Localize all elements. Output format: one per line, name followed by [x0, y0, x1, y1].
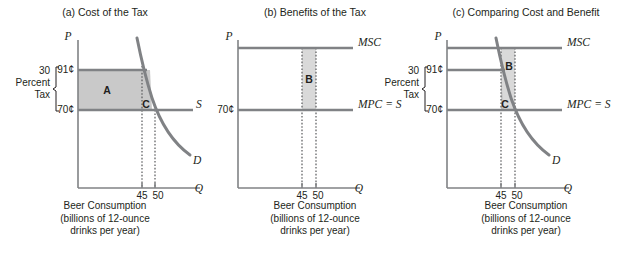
caption-line-1: Beer Consumption: [421, 200, 631, 213]
caption-line-1: Beer Consumption: [0, 200, 210, 213]
supply-curve-label: S: [196, 98, 202, 110]
region-label-c: C: [142, 98, 150, 110]
x-axis-label: Q: [355, 182, 364, 194]
price-label-91: 91¢: [57, 64, 74, 75]
caption-line-3: drinks per year): [210, 225, 420, 238]
tax-label-line1: 30: [408, 65, 420, 76]
y-axis-label: P: [224, 30, 232, 42]
price-label-70: 70¢: [426, 104, 443, 115]
region-label-a: A: [103, 84, 111, 96]
economics-figure: (a) Cost of the Tax P: [0, 0, 631, 253]
region-label-b: B: [505, 60, 513, 72]
tax-label-line3: Tax: [34, 89, 50, 100]
price-label-91: 91¢: [426, 64, 443, 75]
caption-line-2: (billions of 12-ounce: [421, 213, 631, 226]
panel-b-caption: Beer Consumption (billions of 12-ounce d…: [210, 200, 420, 238]
msc-curve-label: MSC: [357, 36, 381, 48]
region-label-c: C: [501, 98, 509, 110]
x-axis-label: Q: [564, 182, 573, 194]
caption-line-3: drinks per year): [421, 225, 631, 238]
price-label-70: 70¢: [57, 104, 74, 115]
y-axis-label: P: [63, 30, 71, 42]
panel-comparing-cost-and-benefit: (c) Comparing Cost and Benefit: [421, 0, 631, 253]
panel-c-caption: Beer Consumption (billions of 12-ounce d…: [421, 200, 631, 238]
tax-label-line2: Percent: [16, 77, 51, 88]
msc-curve-label: MSC: [566, 36, 590, 48]
panel-cost-of-the-tax: (a) Cost of the Tax P: [0, 0, 210, 253]
x-axis-label: Q: [195, 182, 204, 194]
mpc-curve-label: MPC = S: [357, 98, 402, 110]
caption-line-2: (billions of 12-ounce: [210, 213, 420, 226]
caption-line-3: drinks per year): [0, 225, 210, 238]
caption-line-2: (billions of 12-ounce: [0, 213, 210, 226]
demand-curve-label: D: [551, 154, 561, 166]
panel-benefits-of-the-tax: (b) Benefits of the Tax P Q 70¢ B MSC: [210, 0, 420, 253]
demand-curve-label: D: [192, 154, 202, 166]
tax-label-line2: Percent: [385, 77, 420, 88]
price-label-70: 70¢: [217, 104, 234, 115]
panel-a-caption: Beer Consumption (billions of 12-ounce d…: [0, 200, 210, 238]
tax-label-line3: Tax: [403, 89, 419, 100]
caption-line-1: Beer Consumption: [210, 200, 420, 213]
tax-label-line1: 30: [39, 65, 51, 76]
mpc-curve-label: MPC = S: [566, 98, 611, 110]
y-axis-label: P: [433, 30, 441, 42]
region-label-b: B: [305, 73, 313, 85]
